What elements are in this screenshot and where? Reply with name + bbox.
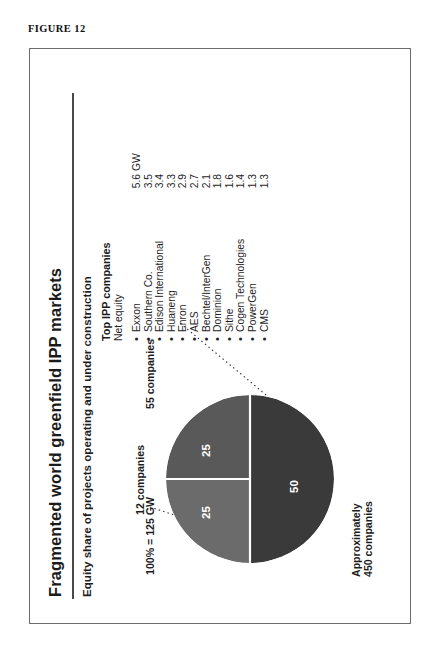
- pie-value-12-companies: 25: [200, 506, 212, 519]
- pie-slice-450-companies: [250, 395, 334, 563]
- list-item: •Enron2.9: [177, 69, 189, 341]
- company-net-equity: 2.1: [201, 174, 213, 200]
- pie-label-450-line1: Approximately: [350, 503, 362, 577]
- pie-label-450-companies: Approximately 450 companies: [350, 501, 374, 577]
- list-item: •Cogen Technologies1.4: [235, 69, 247, 341]
- company-net-equity: 1.4: [235, 174, 247, 200]
- rotated-chart-wrapper: Fragmented world greenfield IPP markets …: [30, 49, 412, 623]
- list-item: •Southern Co.3.5: [143, 69, 155, 341]
- chart-title: Fragmented world greenfield IPP markets: [46, 268, 65, 597]
- company-net-equity: 2.7: [189, 174, 201, 200]
- list-item: •Sithe1.6: [224, 69, 236, 341]
- company-name: Huaneng: [166, 200, 178, 332]
- chart-canvas: Fragmented world greenfield IPP markets …: [30, 49, 412, 623]
- list-item: •Huaneng3.3: [166, 69, 178, 341]
- company-name: Enron: [177, 200, 189, 332]
- company-net-equity: 3.5: [143, 174, 155, 200]
- company-net-equity: 1.8: [212, 174, 224, 200]
- list-heading: Top IPP companies: [100, 69, 112, 341]
- pie-graphic: [166, 395, 334, 563]
- list-item: •Edison International3.4: [154, 69, 166, 341]
- company-items: •Exxon5.6GW•Southern Co.3.5•Edison Inter…: [131, 69, 270, 341]
- bullet-icon: •: [247, 332, 259, 341]
- pie-chart: 100% = 125 GW 12 companies 55 companies …: [138, 365, 398, 605]
- company-name: AES: [189, 200, 201, 332]
- company-name: Southern Co.: [143, 200, 155, 332]
- bullet-icon: •: [189, 332, 201, 341]
- company-name: Edison International: [154, 200, 166, 332]
- company-name: Exxon: [131, 200, 143, 332]
- company-name: Cogen Technologies: [235, 200, 247, 332]
- pie-value-55-companies: 25: [200, 444, 212, 457]
- pie-slice-12-companies: [166, 479, 250, 563]
- company-name: Dominion: [212, 200, 224, 332]
- pie-slice-55-companies: [166, 395, 250, 479]
- company-net-equity: 1.3: [247, 174, 259, 200]
- figure-page: FIGURE 12 Fragmented world greenfield IP…: [0, 0, 442, 651]
- list-item: •Bechtel/InterGen2.1: [201, 69, 213, 341]
- company-name: Bechtel/InterGen: [201, 200, 213, 332]
- company-net-equity: 1.3: [259, 174, 271, 200]
- company-net-equity: 2.9: [177, 174, 189, 200]
- bullet-icon: •: [212, 332, 224, 341]
- pie-label-450-line2: 450 companies: [362, 501, 374, 577]
- pie-value-450-companies: 50: [288, 480, 300, 493]
- figure-panel: Fragmented world greenfield IPP markets …: [29, 48, 411, 624]
- company-net-equity: 3.4: [154, 174, 166, 200]
- pie-label-55-companies: 55 companies: [144, 339, 156, 409]
- list-item: •Dominion1.8: [212, 69, 224, 341]
- top-companies-list: Top IPP companies Net equity •Exxon5.6GW…: [100, 69, 270, 341]
- title-divider: [72, 93, 74, 599]
- pie-label-12-companies: 12 companies: [134, 445, 146, 515]
- company-net-equity-unit: GW: [131, 153, 143, 171]
- company-net-equity: 1.6: [224, 174, 236, 200]
- list-item: •PowerGen1.3: [247, 69, 259, 341]
- company-net-equity: 3.3: [166, 174, 178, 200]
- figure-caption: FIGURE 12: [28, 23, 86, 34]
- company-net-equity: 5.6: [131, 174, 143, 200]
- company-name: CMS: [259, 200, 271, 332]
- chart-subtitle: Equity share of projects operating and u…: [80, 276, 93, 597]
- bullet-icon: •: [131, 332, 143, 341]
- company-name: PowerGen: [247, 200, 259, 332]
- list-item: •Exxon5.6GW: [131, 69, 143, 341]
- company-name: Sithe: [224, 200, 236, 332]
- list-subheading: Net equity: [113, 69, 124, 341]
- list-item: •CMS1.3: [259, 69, 271, 341]
- bullet-icon: •: [259, 332, 271, 341]
- list-item: •AES2.7: [189, 69, 201, 341]
